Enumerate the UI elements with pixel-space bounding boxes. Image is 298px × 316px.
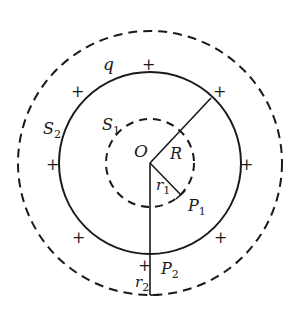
point-label-p2: P2 xyxy=(160,259,179,281)
plus-sign: + xyxy=(213,82,226,101)
plus-sign: + xyxy=(142,55,155,74)
radius-label-r1: r1 xyxy=(156,176,170,197)
radius-label-r: R xyxy=(169,144,182,163)
charge-label-q: q xyxy=(103,54,114,74)
center-label-o: O xyxy=(134,141,148,161)
point-label-p1: P1 xyxy=(187,196,206,218)
radius-label-r2: r2 xyxy=(135,273,149,294)
plus-sign: + xyxy=(240,155,253,174)
gauss-law-diagram: O q R S2 S1 r1 r2 P1 P2 + + + + + + + + xyxy=(0,0,298,316)
plus-sign: + xyxy=(46,155,59,174)
plus-sign: + xyxy=(138,256,151,275)
surface-label-s2: S2 xyxy=(43,119,61,141)
plus-sign: + xyxy=(72,228,85,247)
surface-label-s1: S1 xyxy=(102,115,120,137)
plus-sign: + xyxy=(71,82,84,101)
plus-sign: + xyxy=(214,228,227,247)
